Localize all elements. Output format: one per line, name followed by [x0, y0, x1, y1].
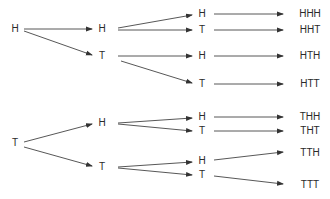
- tree-node-label: T: [99, 51, 105, 61]
- tree-diagram: [0, 0, 330, 199]
- tree-node-label: T: [199, 170, 205, 180]
- branch-arrow: [118, 118, 192, 123]
- tree-node-label: H: [198, 156, 205, 166]
- tree-node-label: H: [98, 24, 105, 34]
- branch-arrow: [118, 168, 192, 175]
- tree-node-label: H: [98, 118, 105, 128]
- branch-arrow: [24, 124, 92, 142]
- tree-node-label: T: [199, 79, 205, 89]
- branch-arrow: [24, 147, 92, 166]
- tree-node-label: T: [12, 138, 18, 148]
- outcome-label: THH: [300, 112, 321, 122]
- tree-node-label: T: [199, 126, 205, 136]
- outcome-label: HHH: [299, 9, 321, 19]
- branch-arrow: [121, 61, 192, 83]
- branch-arrow: [118, 15, 192, 28]
- branch-arrow: [24, 31, 92, 55]
- tree-node-label: T: [99, 162, 105, 172]
- outcome-label: HHT: [300, 25, 321, 35]
- outcome-label: TTH: [300, 148, 319, 158]
- tree-node-label: H: [198, 9, 205, 19]
- outcome-label: HTH: [300, 51, 321, 61]
- branch-arrow: [214, 176, 283, 184]
- outcome-label: HTT: [300, 79, 319, 89]
- tree-node-label: H: [11, 24, 18, 34]
- tree-node-label: T: [199, 25, 205, 35]
- tree-node-label: H: [198, 51, 205, 61]
- branch-arrow: [118, 162, 192, 167]
- tree-edges: [24, 14, 283, 184]
- outcome-label: TTT: [301, 180, 319, 190]
- tree-node-label: H: [198, 112, 205, 122]
- branch-arrow: [214, 152, 283, 160]
- branch-arrow: [118, 124, 192, 131]
- outcome-label: THT: [300, 126, 319, 136]
